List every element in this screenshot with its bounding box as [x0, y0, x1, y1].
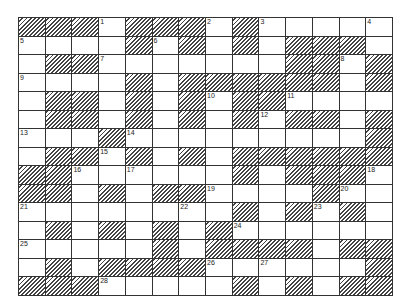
answer-cell[interactable] — [179, 240, 206, 259]
answer-cell[interactable]: 7 — [99, 55, 126, 74]
answer-cell[interactable]: 3 — [259, 18, 286, 37]
answer-cell[interactable] — [46, 129, 73, 148]
answer-cell[interactable] — [206, 111, 233, 130]
answer-cell[interactable] — [313, 240, 340, 259]
answer-cell[interactable] — [366, 203, 393, 222]
answer-cell[interactable]: 28 — [99, 277, 126, 296]
answer-cell[interactable]: 24 — [233, 222, 260, 241]
answer-cell[interactable] — [286, 259, 313, 278]
answer-cell[interactable] — [46, 37, 73, 56]
answer-cell[interactable] — [259, 129, 286, 148]
answer-cell[interactable] — [366, 92, 393, 111]
answer-cell[interactable] — [340, 111, 367, 130]
answer-cell[interactable]: 8 — [340, 55, 367, 74]
answer-cell[interactable]: 21 — [19, 203, 46, 222]
answer-cell[interactable]: 23 — [313, 203, 340, 222]
answer-cell[interactable] — [72, 259, 99, 278]
answer-cell[interactable] — [340, 18, 367, 37]
answer-cell[interactable] — [72, 129, 99, 148]
answer-cell[interactable] — [99, 74, 126, 93]
answer-cell[interactable] — [233, 129, 260, 148]
answer-cell[interactable] — [19, 111, 46, 130]
answer-cell[interactable] — [366, 37, 393, 56]
answer-cell[interactable] — [340, 92, 367, 111]
answer-cell[interactable]: 25 — [19, 240, 46, 259]
answer-cell[interactable] — [259, 185, 286, 204]
answer-cell[interactable] — [206, 166, 233, 185]
answer-cell[interactable] — [153, 148, 180, 167]
answer-cell[interactable] — [72, 203, 99, 222]
answer-cell[interactable]: 22 — [179, 203, 206, 222]
answer-cell[interactable] — [126, 55, 153, 74]
answer-cell[interactable] — [46, 240, 73, 259]
answer-cell[interactable] — [340, 222, 367, 241]
answer-cell[interactable] — [366, 185, 393, 204]
answer-cell[interactable] — [153, 166, 180, 185]
answer-cell[interactable] — [179, 222, 206, 241]
answer-cell[interactable] — [46, 74, 73, 93]
answer-cell[interactable] — [340, 129, 367, 148]
answer-cell[interactable] — [99, 240, 126, 259]
answer-cell[interactable] — [340, 74, 367, 93]
answer-cell[interactable]: 16 — [72, 166, 99, 185]
answer-cell[interactable] — [179, 55, 206, 74]
answer-cell[interactable] — [126, 185, 153, 204]
answer-cell[interactable] — [153, 74, 180, 93]
answer-cell[interactable] — [72, 222, 99, 241]
answer-cell[interactable]: 17 — [126, 166, 153, 185]
answer-cell[interactable] — [259, 203, 286, 222]
answer-cell[interactable]: 10 — [206, 92, 233, 111]
answer-cell[interactable] — [313, 222, 340, 241]
answer-cell[interactable]: 2 — [206, 18, 233, 37]
answer-cell[interactable] — [72, 185, 99, 204]
answer-cell[interactable]: 15 — [99, 148, 126, 167]
answer-cell[interactable] — [366, 222, 393, 241]
answer-cell[interactable] — [153, 129, 180, 148]
answer-cell[interactable] — [286, 222, 313, 241]
answer-cell[interactable] — [233, 55, 260, 74]
answer-cell[interactable] — [126, 240, 153, 259]
answer-cell[interactable] — [286, 129, 313, 148]
answer-cell[interactable] — [179, 129, 206, 148]
answer-cell[interactable] — [313, 92, 340, 111]
answer-cell[interactable]: 12 — [259, 111, 286, 130]
answer-cell[interactable] — [233, 259, 260, 278]
answer-cell[interactable]: 27 — [259, 259, 286, 278]
answer-cell[interactable] — [206, 277, 233, 296]
answer-cell[interactable] — [179, 166, 206, 185]
answer-cell[interactable] — [259, 222, 286, 241]
answer-cell[interactable] — [259, 37, 286, 56]
answer-cell[interactable] — [126, 277, 153, 296]
answer-cell[interactable] — [19, 148, 46, 167]
answer-cell[interactable]: 14 — [126, 129, 153, 148]
answer-cell[interactable] — [313, 259, 340, 278]
answer-cell[interactable]: 5 — [19, 37, 46, 56]
answer-cell[interactable] — [286, 18, 313, 37]
answer-cell[interactable] — [153, 203, 180, 222]
answer-cell[interactable] — [72, 240, 99, 259]
answer-cell[interactable] — [286, 185, 313, 204]
answer-cell[interactable]: 19 — [206, 185, 233, 204]
answer-cell[interactable] — [179, 277, 206, 296]
answer-cell[interactable] — [153, 55, 180, 74]
answer-cell[interactable] — [259, 277, 286, 296]
answer-cell[interactable] — [259, 166, 286, 185]
answer-cell[interactable]: 6 — [153, 37, 180, 56]
answer-cell[interactable] — [99, 37, 126, 56]
answer-cell[interactable] — [19, 259, 46, 278]
answer-cell[interactable] — [99, 92, 126, 111]
answer-cell[interactable]: 13 — [19, 129, 46, 148]
answer-cell[interactable]: 11 — [286, 92, 313, 111]
answer-cell[interactable] — [19, 92, 46, 111]
answer-cell[interactable] — [313, 129, 340, 148]
answer-cell[interactable] — [206, 203, 233, 222]
answer-cell[interactable]: 1 — [99, 18, 126, 37]
answer-cell[interactable] — [99, 203, 126, 222]
answer-cell[interactable] — [19, 55, 46, 74]
answer-cell[interactable]: 18 — [366, 166, 393, 185]
answer-cell[interactable]: 26 — [206, 259, 233, 278]
answer-cell[interactable] — [126, 203, 153, 222]
answer-cell[interactable]: 4 — [366, 18, 393, 37]
answer-cell[interactable] — [153, 111, 180, 130]
answer-cell[interactable] — [153, 92, 180, 111]
